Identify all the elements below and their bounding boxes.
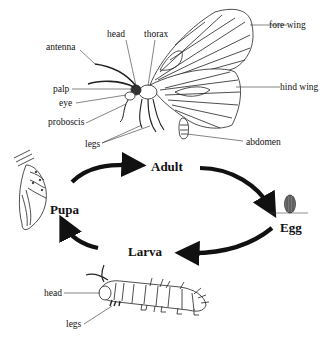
label-fore-wing: fore wing	[269, 21, 306, 31]
stage-label-larva: Larva	[128, 245, 162, 258]
arrow-pupa-to-adult	[72, 165, 134, 182]
arrow-adult-to-egg	[200, 168, 270, 207]
larva-illustration	[86, 265, 209, 315]
cycle-arrows	[65, 165, 272, 253]
stage-label-egg: Egg	[280, 221, 302, 234]
arrow-larva-to-pupa	[65, 226, 98, 248]
label-larva-legs: legs	[66, 320, 81, 330]
label-antenna: antenna	[46, 43, 76, 53]
label-legs: legs	[85, 140, 100, 150]
stage-label-pupa: Pupa	[50, 203, 79, 216]
label-head: head	[107, 30, 125, 40]
arrow-egg-to-larva	[187, 228, 272, 253]
pupa-illustration	[14, 150, 46, 230]
label-abdomen: abdomen	[246, 138, 281, 148]
label-thorax: thorax	[144, 30, 168, 40]
label-proboscis: proboscis	[48, 118, 84, 128]
label-larva-head: head	[44, 289, 62, 299]
egg-illustration	[270, 195, 308, 213]
label-hind-wing: hind wing	[280, 83, 318, 93]
stage-label-adult: Adult	[151, 160, 183, 173]
label-palp: palp	[53, 85, 69, 95]
label-eye: eye	[59, 99, 72, 109]
